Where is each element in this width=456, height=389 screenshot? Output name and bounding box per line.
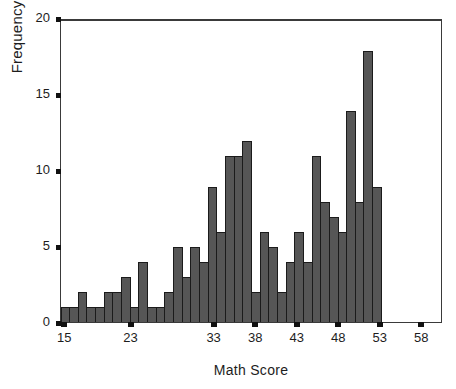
x-tick-label: 33 — [200, 330, 228, 345]
y-tick-mark — [56, 169, 61, 174]
y-tick-mark — [56, 93, 61, 98]
y-tick-label: 15 — [36, 86, 50, 101]
x-tick-label: 53 — [366, 330, 394, 345]
histogram-figure: Frequency 05101520 1523333843485358 Math… — [0, 0, 456, 389]
y-tick: 5 — [0, 247, 60, 248]
y-tick: 15 — [0, 95, 60, 96]
histogram-bar — [372, 187, 382, 322]
x-tick-mark — [252, 322, 258, 327]
y-tick-mark — [56, 245, 61, 250]
y-tick-mark — [56, 17, 61, 22]
y-tick: 20 — [0, 19, 60, 20]
y-tick-label: 10 — [36, 162, 50, 177]
x-tick-label: 58 — [407, 330, 435, 345]
x-tick-mark — [377, 322, 383, 327]
x-tick-mark — [335, 322, 341, 327]
bar-series — [61, 21, 441, 322]
y-tick: 0 — [0, 323, 60, 324]
y-tick-label: 20 — [36, 10, 50, 25]
x-tick-mark — [294, 322, 300, 327]
y-tick: 10 — [0, 171, 60, 172]
x-tick-label: 23 — [117, 330, 145, 345]
x-tick-label: 15 — [50, 330, 78, 345]
x-tick-label: 48 — [324, 330, 352, 345]
x-tick-mark — [211, 322, 217, 327]
x-tick-mark — [61, 322, 67, 327]
x-tick-label: 38 — [241, 330, 269, 345]
x-tick-mark — [128, 322, 134, 327]
x-axis-title: Math Score — [60, 362, 442, 378]
plot-area — [60, 19, 442, 323]
x-tick-label: 43 — [283, 330, 311, 345]
x-tick-mark — [418, 322, 424, 327]
y-tick-label: 0 — [43, 314, 50, 329]
y-tick-label: 5 — [43, 238, 50, 253]
